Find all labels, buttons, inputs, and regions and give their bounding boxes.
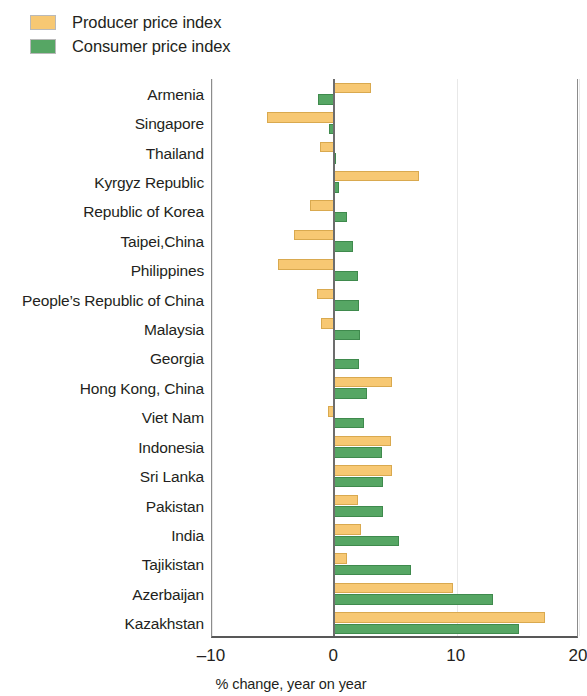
bar-producer-price-index [334,553,346,564]
category-label: Pakistan [146,499,204,515]
bar-producer-price-index [278,259,334,270]
chart-row: Tajikistan [212,550,577,579]
category-label: Taipei,China [120,234,204,250]
bar-consumer-price-index [334,300,358,311]
x-axis-tick-label: 0 [329,646,338,666]
category-label: People’s Republic of China [22,293,204,309]
chart-row: Thailand [212,138,577,167]
category-label: Kyrgyz Republic [94,175,204,191]
bar-consumer-price-index [334,359,358,370]
chart-row: Republic of Korea [212,197,577,226]
bar-consumer-price-index [334,565,411,576]
category-label: India [171,528,204,544]
bar-producer-price-index [334,377,391,388]
chart-row: Viet Nam [212,403,577,432]
chart-row: Sri Lanka [212,461,577,490]
category-label: Malaysia [144,322,204,338]
category-label: Kazakhstan [125,616,205,632]
chart-row: Indonesia [212,432,577,461]
category-label: Viet Nam [142,410,204,426]
bar-consumer-price-index [334,506,383,517]
gridline [579,79,580,636]
bar-producer-price-index [334,524,361,535]
chart-row: Philippines [212,256,577,285]
chart-row: Kyrgyz Republic [212,167,577,196]
chart-row: People’s Republic of China [212,285,577,314]
bar-consumer-price-index [334,477,383,488]
plot-area: ArmeniaSingaporeThailandKyrgyz RepublicR… [211,79,578,638]
x-axis-title: % change, year on year [0,676,582,692]
x-axis-tick-label: 10 [446,646,465,666]
bar-producer-price-index [267,112,334,123]
x-axis-tick-label: –10 [197,646,225,666]
x-axis-tick-label: 20 [569,646,587,666]
chart-row: Azerbaijan [212,579,577,608]
chart-row: Taipei,China [212,226,577,255]
chart-row: Pakistan [212,491,577,520]
chart-row: India [212,520,577,549]
bar-consumer-price-index [334,271,357,282]
chart-row: Georgia [212,344,577,373]
bar-producer-price-index [334,465,391,476]
bar-consumer-price-index [334,241,352,252]
bar-producer-price-index [334,612,544,623]
bar-producer-price-index [334,495,357,506]
bar-consumer-price-index [334,536,399,547]
bar-producer-price-index [320,142,335,153]
bar-consumer-price-index [334,330,360,341]
bar-producer-price-index [334,583,453,594]
category-label: Singapore [135,116,204,132]
bar-consumer-price-index [334,418,363,429]
category-label: Azerbaijan [132,587,204,603]
chart-row: Malaysia [212,314,577,343]
category-label: Tajikistan [142,557,204,573]
category-label: Sri Lanka [140,469,204,485]
bar-consumer-price-index [334,388,367,399]
bar-producer-price-index [294,230,334,241]
category-label: Thailand [146,146,204,162]
bar-producer-price-index [317,289,334,300]
chart-row: Kazakhstan [212,609,577,638]
bar-consumer-price-index [334,212,346,223]
category-label: Armenia [147,87,204,103]
category-label: Indonesia [138,440,204,456]
bar-producer-price-index [334,436,390,447]
category-label: Hong Kong, China [80,381,204,397]
chart-row: Singapore [212,108,577,137]
bar-consumer-price-index [334,594,493,605]
category-label: Republic of Korea [83,204,204,220]
category-label: Georgia [150,351,204,367]
bar-producer-price-index [334,171,418,182]
bar-consumer-price-index [334,624,519,635]
bar-producer-price-index [310,200,334,211]
bar-producer-price-index [321,318,334,329]
chart-row: Armenia [212,79,577,108]
category-label: Philippines [131,263,204,279]
bar-consumer-price-index [318,94,334,105]
chart-row: Hong Kong, China [212,373,577,402]
bar-producer-price-index [334,83,371,94]
zero-axis-line [333,79,335,636]
bar-consumer-price-index [334,447,382,458]
